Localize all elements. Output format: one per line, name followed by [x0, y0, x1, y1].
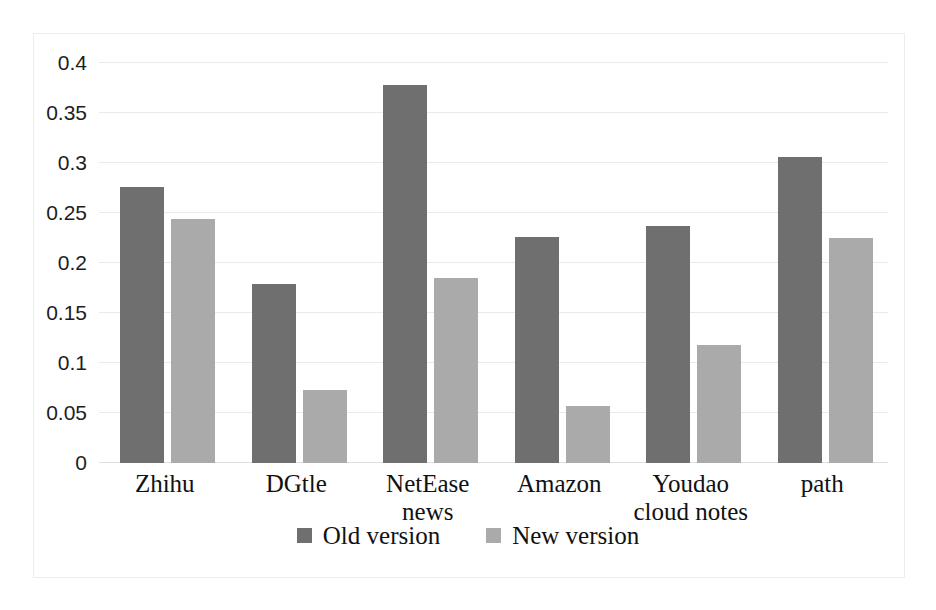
- bar-group-3: [494, 62, 626, 463]
- legend-label-new-version: New version: [512, 523, 639, 548]
- ytick-label-2: 0.3: [58, 152, 87, 173]
- category-label-zhihu: Zhihu: [99, 470, 231, 526]
- bar-new-1: [303, 390, 347, 463]
- ytick-label-1: 0.35: [46, 102, 87, 123]
- bar-old-3: [515, 237, 559, 463]
- bar-chart-figure: 0.4 0.35 0.3 0.25 0.2 0.15 0.1 0.05 0: [0, 0, 936, 610]
- ytick-label-0: 0.4: [58, 52, 87, 73]
- ytick-label-3: 0.25: [46, 202, 87, 223]
- legend-item-new-version: New version: [486, 523, 639, 548]
- chart-legend: Old version New version: [0, 523, 936, 548]
- legend-label-old-version: Old version: [323, 523, 440, 548]
- category-label-netease-news: NetEase news: [362, 470, 494, 526]
- legend-item-old-version: Old version: [297, 523, 440, 548]
- category-label-amazon: Amazon: [494, 470, 626, 526]
- bar-old-5: [778, 157, 822, 463]
- bar-old-1: [252, 284, 296, 463]
- ytick-label-7: 0.05: [46, 402, 87, 423]
- bar-group-5: [757, 62, 889, 463]
- bar-old-0: [120, 187, 164, 463]
- bar-new-5: [829, 238, 873, 463]
- category-axis-labels: Zhihu DGtle NetEase news Amazon Youdao c…: [99, 470, 888, 526]
- category-label-dgtle: DGtle: [231, 470, 363, 526]
- legend-swatch-icon-new-version: [486, 528, 501, 543]
- category-label-youdao-cloud-notes: Youdao cloud notes: [625, 470, 757, 526]
- bar-group-2: [362, 62, 494, 463]
- bar-group-0: [99, 62, 231, 463]
- ytick-label-4: 0.2: [58, 252, 87, 273]
- ytick-label-8: 0: [75, 452, 87, 473]
- ytick-label-5: 0.15: [46, 302, 87, 323]
- bar-old-2: [383, 85, 427, 463]
- bar-new-2: [434, 278, 478, 463]
- ytick-label-6: 0.1: [58, 352, 87, 373]
- bar-group-1: [231, 62, 363, 463]
- legend-swatch-icon-old-version: [297, 528, 312, 543]
- bar-groups: [99, 62, 888, 463]
- bar-old-4: [646, 226, 690, 463]
- bar-group-4: [625, 62, 757, 463]
- bar-new-4: [697, 345, 741, 463]
- bar-new-3: [566, 406, 610, 463]
- plot-area: 0.4 0.35 0.3 0.25 0.2 0.15 0.1 0.05 0: [99, 62, 888, 463]
- category-label-path: path: [757, 470, 889, 526]
- bar-new-0: [171, 219, 215, 463]
